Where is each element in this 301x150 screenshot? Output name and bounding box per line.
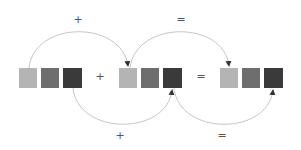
group-c-square-dark <box>264 68 283 88</box>
operation-diagram: + = + = + = <box>0 0 301 150</box>
bottom-plus-symbol: + <box>115 129 124 142</box>
top-arc-equals <box>130 32 229 68</box>
bottom-equals-symbol: = <box>217 129 226 142</box>
top-equals-symbol: = <box>176 13 185 26</box>
middle-plus-symbol: + <box>95 70 104 83</box>
group-a-square-light <box>19 68 37 88</box>
group-c-square-light <box>220 68 238 88</box>
group-b-square-medium <box>141 68 159 88</box>
middle-equals-symbol: = <box>196 70 205 83</box>
bottom-arc-equals <box>174 88 273 124</box>
group-b-square-dark <box>163 68 182 88</box>
group-a-square-medium <box>41 68 59 88</box>
bottom-arc-plus <box>73 88 172 124</box>
top-plus-symbol: + <box>73 13 82 26</box>
group-b-square-light <box>119 68 137 88</box>
top-arc-plus <box>29 32 128 68</box>
group-a-square-dark <box>63 68 82 88</box>
group-c-square-medium <box>242 68 260 88</box>
